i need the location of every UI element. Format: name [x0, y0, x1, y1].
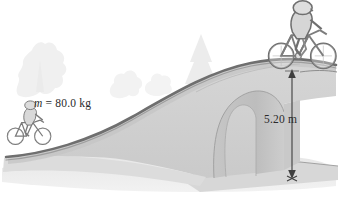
mass-value: = 80.0 kg — [43, 97, 92, 109]
mass-label: m = 80.0 kg — [34, 98, 91, 110]
cyclist-right-helmet — [293, 1, 312, 15]
height-label: 5.20 m — [264, 114, 297, 126]
mass-symbol: m — [34, 97, 43, 109]
